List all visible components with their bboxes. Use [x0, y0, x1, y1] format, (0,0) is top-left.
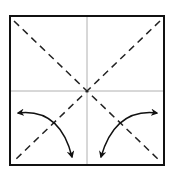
origami-diagram — [0, 0, 172, 179]
